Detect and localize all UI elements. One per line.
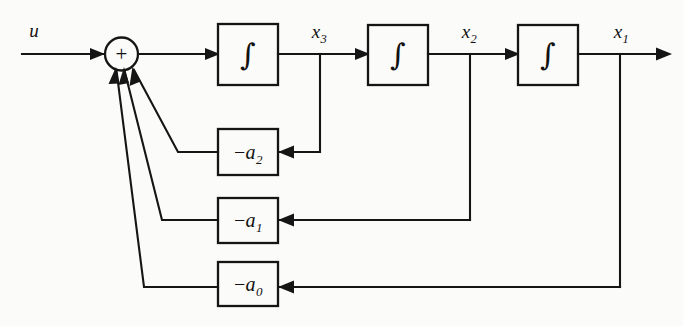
label-signal-x2: x2 — [462, 22, 477, 41]
integral-glyph-1: ∫ — [540, 40, 556, 70]
label-signal-x1-base: x — [614, 21, 622, 42]
label-input-u: u — [29, 21, 39, 40]
label-gain-a2: −a2 — [234, 142, 262, 162]
label-signal-x2-base: x — [462, 21, 470, 42]
label-gain-a2-base: a — [245, 141, 255, 163]
integral-glyph-3: ∫ — [240, 40, 256, 70]
label-signal-x3: x3 — [312, 22, 327, 41]
label-signal-x1-subscript: 1 — [623, 32, 629, 46]
arrowhead-output — [656, 48, 672, 61]
label-signal-x3-base: x — [312, 21, 320, 42]
integral-glyph-2: ∫ — [390, 40, 406, 70]
label-gain-a0: −a0 — [234, 274, 262, 294]
block-diagram-canvas: + u ∫ ∫ ∫ x3 x2 x1 −a2 −a1 −a0 — [0, 0, 683, 326]
label-gain-a1: −a1 — [234, 210, 262, 230]
label-signal-x1: x1 — [614, 22, 629, 41]
label-gain-a1-base: a — [245, 209, 255, 231]
diagram-vector-layer — [0, 0, 683, 326]
label-gain-a0-base: a — [245, 273, 255, 295]
return-path-a1 — [125, 71, 219, 221]
arrowhead-into-gain-a2 — [278, 146, 294, 159]
label-gain-a2-subscript: 2 — [256, 152, 263, 167]
label-signal-x3-subscript: 3 — [321, 32, 327, 46]
label-gain-a1-subscript: 1 — [256, 220, 263, 235]
label-gain-a2-minus: − — [234, 141, 245, 163]
label-gain-a0-minus: − — [234, 273, 245, 295]
arrowhead-into-gain-a0 — [278, 281, 294, 294]
arrowhead-into-gain-a1 — [278, 214, 294, 227]
summing-junction-sign: + — [116, 44, 128, 65]
label-signal-x2-subscript: 2 — [471, 32, 477, 46]
arrowhead-into-sum — [90, 48, 105, 60]
label-gain-a0-subscript: 0 — [256, 284, 263, 299]
return-path-a2 — [134, 70, 218, 152]
label-gain-a1-minus: − — [234, 209, 245, 231]
arrowhead-return-a2 — [130, 67, 141, 87]
